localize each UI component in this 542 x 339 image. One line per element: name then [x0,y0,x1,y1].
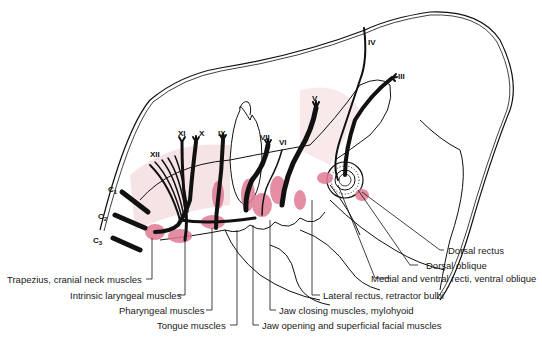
label-dorsal-oblique: Dorsal oblique [426,260,487,271]
label-pharyngeal: Pharyngeal muscles [119,305,205,316]
c3-sub: 3 [99,240,102,246]
label-intrinsic-laryngeal: Intrinsic laryngeal muscles [70,290,181,301]
nerve-label-vi: VI [279,138,287,147]
nerve-label-xi: XI [178,129,186,138]
label-jaw-opening: Jaw opening and superficial facial muscl… [262,320,442,331]
nerve-label-c2: C2 [98,212,107,224]
label-trapezius: Trapezius, cranial neck muscles [7,274,142,285]
c1-sub: 1 [114,189,117,195]
nerve-label-ix: IX [218,129,226,138]
c2-sub: 2 [104,216,107,222]
nerve-label-x: X [199,129,204,138]
nerve-label-c3: C3 [93,236,102,248]
nerve-label-v: V [312,94,317,103]
nerve-label-xii: XII [150,150,160,159]
embryo-head-diagram [0,0,542,339]
nerve-label-vii: VII [260,133,270,142]
label-medial-ventral: Medial and ventral recti, ventral obliqu… [371,273,536,284]
label-tongue: Tongue muscles [157,320,226,331]
label-lateral-rectus: Lateral rectus, retractor bulbi [323,290,444,301]
nerve-label-iv: IV [368,38,376,47]
nerve-label-c1: C1 [108,185,117,197]
label-jaw-closing: Jaw closing muscles, mylohyoid [279,305,414,316]
nerve-label-iii: III [398,72,405,81]
label-dorsal-rectus: Dorsal rectus [448,245,504,256]
